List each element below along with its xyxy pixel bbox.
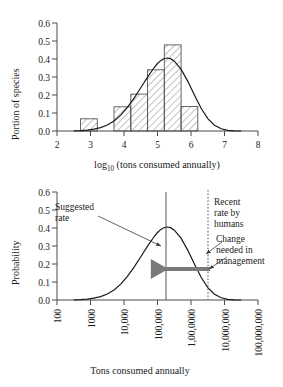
bottom-ytick-0.1: 0.1 <box>38 278 50 288</box>
bottom-xtick-100: 100 <box>53 309 63 324</box>
bar-6 <box>181 107 198 132</box>
bottom-xtick-1000: 1000 <box>87 309 97 328</box>
top-ytick-0.4: 0.4 <box>38 55 50 65</box>
top-panel: Portion of species 0.6 0.5 0.4 0.3 0.2 0… <box>10 19 261 150</box>
bottom-xtick-1000000: 1,00,0000 <box>187 309 197 347</box>
bottom-x-axis-title: Tons consumed annually <box>90 365 189 376</box>
figure-container: Portion of species 0.6 0.5 0.4 0.3 0.2 0… <box>0 0 283 387</box>
bar-4 <box>148 70 165 131</box>
change-needed-label-line2: needed in <box>216 245 253 255</box>
top-ytick-0.6: 0.6 <box>38 19 50 29</box>
top-x-axis-title-base: log <box>94 159 107 170</box>
top-ytick-0.5: 0.5 <box>38 37 50 47</box>
bottom-xtick-10000: 10,000 <box>120 309 130 335</box>
top-y-axis-title: Portion of species <box>10 68 21 140</box>
bottom-ytick-0.4: 0.4 <box>38 224 50 234</box>
top-ytick-0.1: 0.1 <box>38 109 50 119</box>
bottom-xtick-100000000: 100,000,000 <box>254 309 264 357</box>
top-xtick-8: 8 <box>256 140 261 150</box>
top-x-axis-title: log10 (tons consumed annually) <box>94 159 220 173</box>
change-needed-label-line3: management <box>216 256 265 266</box>
bottom-ytick-0.3: 0.3 <box>38 242 50 252</box>
suggested-rate-label-line2: rate <box>55 213 69 223</box>
bottom-ytick-0.2: 0.2 <box>38 260 50 270</box>
bottom-xtick-10000000: 10,000,000 <box>221 309 231 352</box>
top-x-axis-title-rest: (tons consumed annually) <box>114 159 220 171</box>
top-xtick-6: 6 <box>189 140 194 150</box>
top-ytick-0.0: 0.0 <box>38 127 50 137</box>
bottom-ytick-0.5: 0.5 <box>38 206 50 216</box>
two-panel-distribution-figure: Portion of species 0.6 0.5 0.4 0.3 0.2 0… <box>0 0 283 387</box>
suggested-rate-label-line1: Suggested <box>55 202 94 212</box>
suggested-rate-leader <box>98 216 161 246</box>
recent-rate-label-line2: rate by <box>214 208 240 218</box>
recent-rate-label-line1: Recent <box>214 197 241 207</box>
bottom-y-axis-title: Probability <box>10 241 21 285</box>
bottom-ytick-0.0: 0.0 <box>38 296 50 306</box>
top-xtick-2: 2 <box>55 140 60 150</box>
bottom-ytick-0.6: 0.6 <box>38 188 50 198</box>
top-bars-group <box>81 45 198 131</box>
top-xtick-7: 7 <box>222 140 227 150</box>
change-needed-label-line1: Change <box>216 234 245 244</box>
bottom-xtick-100000: 100,000 <box>154 309 164 340</box>
top-ytick-0.3: 0.3 <box>38 73 50 83</box>
recent-rate-label-line3: humans <box>214 219 244 229</box>
bottom-panel: Probability 0.6 0.5 0.4 0.3 0.2 0.1 0.0 … <box>10 188 265 357</box>
top-ytick-0.2: 0.2 <box>38 91 50 101</box>
top-xtick-4: 4 <box>122 140 127 150</box>
top-xtick-3: 3 <box>88 140 93 150</box>
top-xtick-5: 5 <box>155 140 160 150</box>
